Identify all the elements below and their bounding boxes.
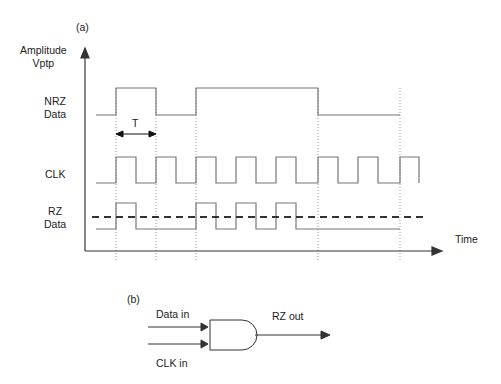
timing-diagram [0, 0, 501, 384]
data-in-label: Data in [156, 308, 189, 321]
rz-label: RZ Data [44, 205, 66, 231]
rz-label-line2: Data [44, 218, 66, 231]
nrz-label: NRZ Data [44, 95, 66, 121]
period-label: T [132, 117, 138, 130]
clk-label: CLK [45, 168, 65, 181]
axes [81, 48, 442, 255]
period-arrow [116, 131, 156, 137]
panel-a-label: (a) [76, 21, 89, 34]
x-axis-arrow-icon [432, 247, 442, 255]
y-axis-label: Amplitude Vptp [20, 44, 67, 70]
y-axis-label-line2: Vptp [20, 57, 67, 70]
nrz-waveform [96, 88, 400, 115]
nrz-label-line1: NRZ [44, 95, 66, 108]
panel-b-label: (b) [127, 293, 140, 306]
y-axis-arrow-icon [81, 48, 89, 58]
and-gate-diagram [148, 320, 330, 350]
output-arrow-icon [321, 331, 330, 339]
clk-waveform [96, 157, 419, 183]
rz-label-line1: RZ [44, 205, 66, 218]
clk-in-label: CLK in [156, 357, 188, 370]
and-gate-icon [210, 320, 257, 350]
nrz-label-line2: Data [44, 108, 66, 121]
x-axis-label: Time [455, 233, 478, 246]
y-axis-label-line1: Amplitude [20, 44, 67, 57]
rz-out-label: RZ out [272, 310, 304, 323]
